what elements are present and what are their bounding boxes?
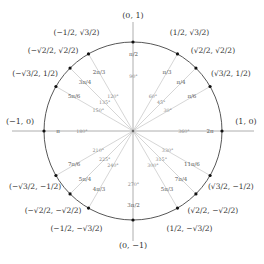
degree-label-210: 210° [93, 148, 105, 153]
point-45 [194, 66, 197, 69]
point-180 [42, 129, 45, 132]
point-120 [87, 52, 90, 55]
ray-330 [133, 131, 210, 176]
point-210 [54, 174, 57, 177]
degree-label-120: 120° [107, 94, 119, 99]
degree-label-135: 135° [99, 100, 111, 105]
coord-label-0: (1, 0) [235, 117, 257, 126]
ray-60 [133, 54, 178, 131]
ray-210 [56, 131, 133, 176]
coord-label-135: (−√2/2, √2/2) [28, 46, 79, 55]
radian-label-210: 7π/6 [68, 161, 81, 167]
radian-label-225: 5π/4 [79, 176, 92, 182]
degree-label-150: 150° [93, 108, 105, 113]
point-330 [208, 174, 211, 177]
degree-label-225: 225° [99, 157, 111, 162]
origin-point [132, 130, 134, 132]
point-315 [194, 192, 197, 195]
degree-label-315: 315° [156, 157, 168, 162]
radian-label-60: π/3 [163, 69, 172, 75]
degree-label-300: 300° [147, 163, 159, 168]
point-30 [208, 85, 211, 88]
ray-120 [89, 54, 134, 131]
degree-label-60: 60° [149, 94, 158, 99]
radian-label-240: 4π/3 [93, 186, 106, 192]
coord-label-240: (−1/2, −√3/2) [50, 224, 102, 233]
point-150 [54, 85, 57, 88]
point-240 [87, 206, 90, 209]
coord-label-90: (0, 1) [122, 11, 144, 20]
radian-label-45: π/4 [177, 79, 186, 85]
coord-label-30: (√3/2, 1/2) [211, 69, 251, 78]
coord-label-270: (0, −1) [119, 241, 147, 250]
coord-label-300: (1/2, −√3/2) [167, 224, 213, 233]
coord-label-180: (−1, 0) [6, 117, 34, 126]
ray-300 [133, 131, 178, 208]
degree-label-330: 330° [162, 148, 174, 153]
radian-label-90: π/2 [129, 51, 138, 57]
unit-circle-diagram: 30°45°60°120°135°150°210°225°240°300°315… [0, 0, 264, 264]
point-0 [220, 129, 223, 132]
coord-label-45: (√2/2, √2/2) [191, 46, 235, 55]
radian-label-315: 7π/4 [175, 176, 188, 182]
radian-label-300: 5π/3 [161, 186, 174, 192]
degree-label-240: 240° [107, 163, 119, 168]
radian-label-180: π [56, 128, 60, 134]
degree-label-30: 30° [163, 108, 172, 113]
coord-label-120: (−1/2, √3/2) [54, 28, 100, 37]
degree-label-0: 360° [178, 129, 190, 134]
coord-label-315: (√2/2, −√2/2) [188, 206, 239, 215]
coord-label-225: (−√2/2, −√2/2) [25, 206, 82, 215]
radian-label-330: 11π/6 [184, 161, 200, 167]
radian-label-135: 3π/4 [79, 79, 92, 85]
radian-label-0: 2π [206, 128, 213, 134]
point-135 [68, 66, 71, 69]
coord-label-150: (−√3/2, 1/2) [12, 69, 58, 78]
coord-label-210: (−√3/2, −1/2) [9, 182, 61, 191]
point-60 [176, 52, 179, 55]
point-225 [68, 192, 71, 195]
degree-label-270: 270° [128, 182, 140, 187]
degree-label-45: 45° [157, 100, 166, 105]
radian-label-30: π/6 [187, 93, 196, 99]
degree-label-180: 180° [76, 129, 88, 134]
coord-label-60: (1/2, √3/2) [170, 28, 210, 37]
coord-label-330: (√3/2, −1/2) [208, 182, 254, 191]
degree-label-90: 90° [129, 74, 138, 79]
radian-label-270: 3π/2 [127, 202, 139, 208]
radian-label-120: 2π/3 [93, 69, 106, 75]
point-300 [176, 206, 179, 209]
ray-240 [89, 131, 134, 208]
point-90 [131, 40, 134, 43]
point-270 [131, 218, 134, 221]
radian-label-150: 5π/6 [68, 93, 81, 99]
